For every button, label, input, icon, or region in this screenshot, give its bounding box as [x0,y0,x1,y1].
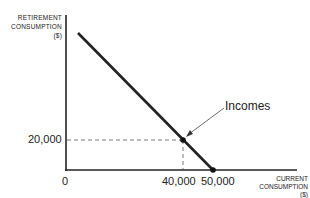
x-tick-40000: 40,000 [162,175,196,187]
x-axis-label-line1: CURRENT [258,175,308,183]
y-tick-20000: 20,000 [28,133,62,145]
x-tick-50000: 50,000 [201,175,235,187]
y-axis-label-line2: CONSUMPTION [6,22,62,31]
point-x-intercept [210,167,216,173]
point-incomes [180,137,186,143]
x-tick-origin: 0 [62,175,68,187]
x-axis-label: CURRENT CONSUMPTION ($) [258,175,308,198]
arrow-head-icon [186,130,193,137]
y-axis-label-line3: ($) [6,31,62,40]
y-axis-label: RETIREMENT CONSUMPTION ($) [6,13,62,40]
budget-line [78,33,213,170]
y-axis-label-line1: RETIREMENT [6,13,62,22]
annotation-arrow [189,108,224,134]
x-axis-label-line2: CONSUMPTION ($) [258,183,308,198]
incomes-annotation: Incomes [225,99,270,113]
